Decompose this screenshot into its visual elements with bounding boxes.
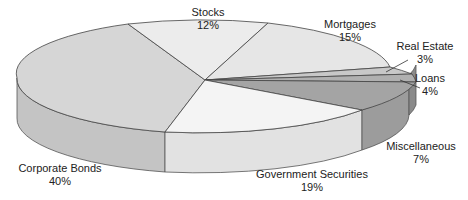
label-real-estate-name: Real Estate — [392, 40, 458, 53]
label-loans-pct: 4% — [405, 85, 455, 98]
label-mortgages-name: Mortgages — [310, 18, 390, 31]
label-real-estate: Real Estate 3% — [392, 40, 458, 66]
label-stocks-pct: 12% — [178, 19, 238, 32]
label-corporate-bonds-name: Corporate Bonds — [10, 162, 110, 175]
label-government-securities: Government Securities 19% — [250, 168, 374, 194]
label-miscellaneous-pct: 7% — [380, 153, 462, 166]
label-miscellaneous-name: Miscellaneous — [380, 140, 462, 153]
label-stocks-name: Stocks — [178, 6, 238, 19]
label-mortgages: Mortgages 15% — [310, 18, 390, 44]
label-loans: Loans 4% — [405, 72, 455, 98]
label-corporate-bonds: Corporate Bonds 40% — [10, 162, 110, 188]
label-mortgages-pct: 15% — [310, 31, 390, 44]
label-stocks: Stocks 12% — [178, 6, 238, 32]
label-loans-name: Loans — [405, 72, 455, 85]
label-government-securities-name: Government Securities — [250, 168, 374, 181]
label-government-securities-pct: 19% — [250, 181, 374, 194]
label-miscellaneous: Miscellaneous 7% — [380, 140, 462, 166]
label-corporate-bonds-pct: 40% — [10, 175, 110, 188]
label-real-estate-pct: 3% — [392, 53, 458, 66]
